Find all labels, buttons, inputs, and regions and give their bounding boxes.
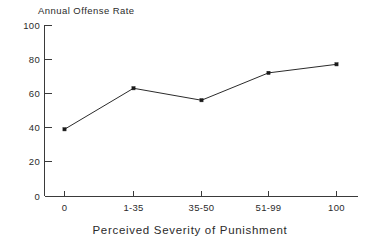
x-tick-label: 100 bbox=[328, 202, 345, 213]
data-point bbox=[63, 128, 66, 131]
x-tick-label: 0 bbox=[62, 202, 68, 213]
x-tick-label: 1-35 bbox=[123, 202, 143, 213]
y-axis-ticks bbox=[45, 25, 52, 196]
data-point bbox=[200, 99, 203, 102]
y-tick-label: 40 bbox=[29, 122, 40, 133]
data-point bbox=[335, 63, 338, 66]
x-axis-ticks bbox=[65, 191, 337, 197]
y-tick-label: 0 bbox=[34, 191, 40, 202]
y-tick-label: 100 bbox=[23, 20, 40, 31]
x-tick-label: 35-50 bbox=[189, 202, 215, 213]
x-tick-label: 51-99 bbox=[256, 202, 282, 213]
chart-container: Annual Offense Rate 0 20 40 60 80 100 bbox=[0, 0, 380, 249]
data-series-line bbox=[65, 64, 337, 129]
data-point bbox=[267, 71, 270, 74]
x-axis-title: Perceived Severity of Punishment bbox=[0, 224, 380, 236]
data-point bbox=[132, 87, 135, 90]
y-tick-label: 20 bbox=[29, 156, 40, 167]
y-tick-label: 80 bbox=[29, 54, 40, 65]
y-tick-label: 60 bbox=[29, 88, 40, 99]
data-point-markers bbox=[63, 63, 338, 131]
y-axis-tick-labels: 0 20 40 60 80 100 bbox=[23, 20, 40, 202]
line-chart-plot: 0 20 40 60 80 100 0 1-35 35-50 51-99 100 bbox=[0, 0, 380, 249]
x-axis-tick-labels: 0 1-35 35-50 51-99 100 bbox=[62, 202, 345, 213]
